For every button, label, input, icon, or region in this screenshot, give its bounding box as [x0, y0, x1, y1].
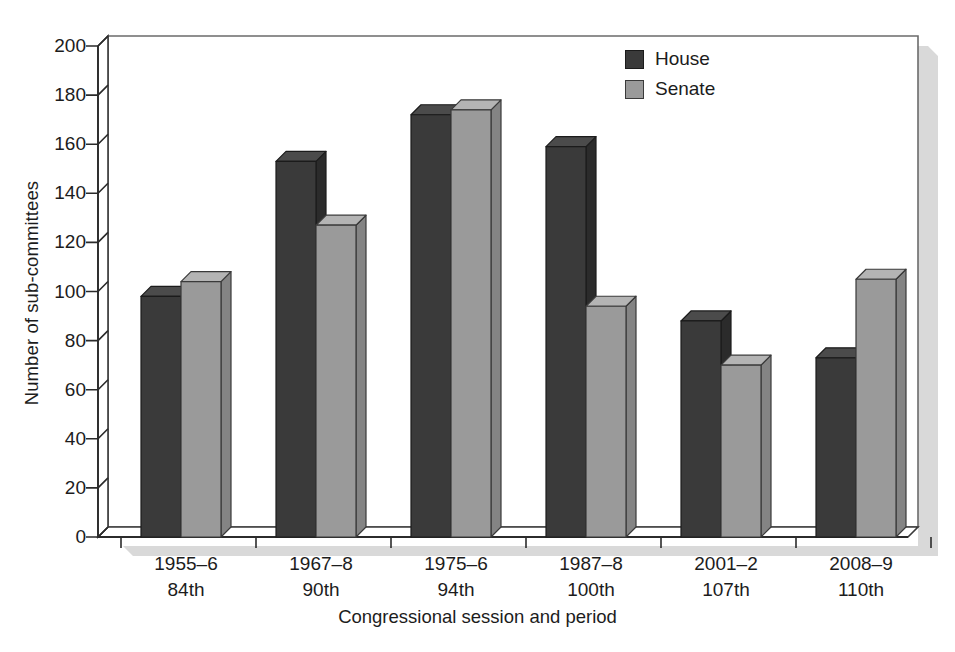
x-group-label-0: 1955–684th	[116, 551, 256, 603]
x-label-period: 2008–9	[791, 551, 931, 577]
x-axis-group-labels: 1955–684th1967–890th1975–694th1987–8100t…	[0, 0, 955, 652]
x-group-label-4: 2001–2107th	[656, 551, 796, 603]
bar-chart-figure: Number of sub-committees 200180160140120…	[0, 0, 955, 652]
x-label-period: 2001–2	[656, 551, 796, 577]
x-label-period: 1967–8	[251, 551, 391, 577]
x-label-session: 84th	[116, 577, 256, 603]
x-label-session: 110th	[791, 577, 931, 603]
x-label-session: 90th	[251, 577, 391, 603]
x-group-label-2: 1975–694th	[386, 551, 526, 603]
x-label-session: 94th	[386, 577, 526, 603]
x-group-label-1: 1967–890th	[251, 551, 391, 603]
x-group-label-5: 2008–9110th	[791, 551, 931, 603]
x-label-period: 1975–6	[386, 551, 526, 577]
x-label-session: 100th	[521, 577, 661, 603]
x-label-period: 1987–8	[521, 551, 661, 577]
x-label-session: 107th	[656, 577, 796, 603]
x-label-period: 1955–6	[116, 551, 256, 577]
x-group-label-3: 1987–8100th	[521, 551, 661, 603]
x-axis-title: Congressional session and period	[0, 606, 955, 628]
